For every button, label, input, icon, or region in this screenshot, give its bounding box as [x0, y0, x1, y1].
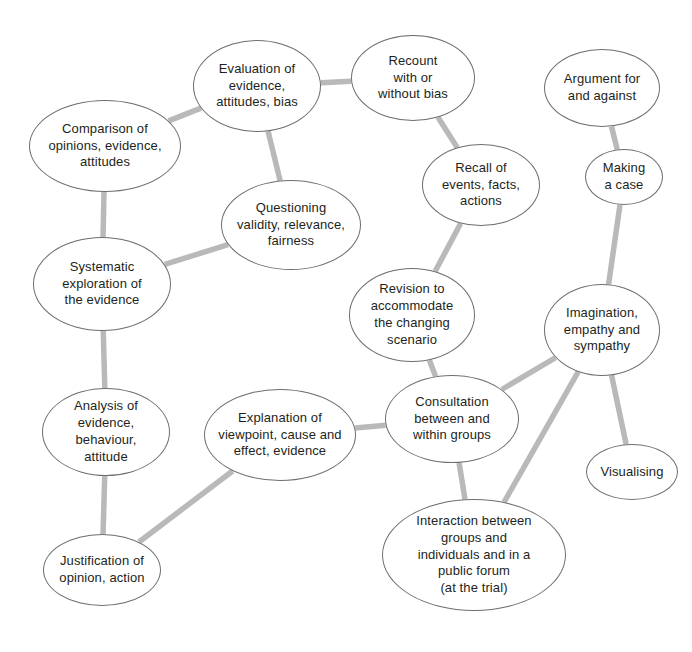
node-recall[interactable]: Recall of events, facts, actions [422, 144, 540, 226]
node-label: Questioning validity, relevance, fairnes… [231, 200, 351, 251]
node-recount[interactable]: Recount with or without bias [351, 35, 475, 121]
node-label: Analysis of evidence, behaviour, attitud… [68, 398, 144, 466]
node-making-a-case[interactable]: Making a case [585, 149, 663, 205]
node-systematic[interactable]: Systematic exploration of the evidence [33, 237, 171, 331]
node-revision[interactable]: Revision to accommodate the changing sce… [349, 268, 475, 362]
node-label: Explanation of viewpoint, cause and effe… [212, 410, 347, 461]
node-label: Evaluation of evidence, attitudes, bias [210, 61, 304, 112]
node-label: Interaction between groups and individua… [410, 513, 537, 597]
node-imagination[interactable]: Imagination, empathy and sympathy [544, 284, 660, 376]
node-label: Argument for and against [558, 71, 646, 105]
node-interaction[interactable]: Interaction between groups and individua… [382, 499, 566, 611]
node-questioning[interactable]: Questioning validity, relevance, fairnes… [221, 180, 361, 270]
node-label: Comparison of opinions, evidence, attitu… [42, 121, 167, 172]
node-visualising[interactable]: Visualising [586, 444, 678, 500]
node-comparison[interactable]: Comparison of opinions, evidence, attitu… [29, 100, 181, 192]
node-label: Systematic exploration of the evidence [56, 259, 147, 310]
node-label: Justification of opinion, action [53, 553, 150, 587]
node-label: Consultation between and within groups [407, 394, 497, 445]
node-consultation[interactable]: Consultation between and within groups [385, 375, 519, 463]
node-label: Visualising [594, 464, 669, 481]
node-label: Revision to accommodate the changing sce… [365, 281, 460, 349]
node-justification[interactable]: Justification of opinion, action [43, 534, 161, 606]
node-label: Imagination, empathy and sympathy [558, 305, 646, 356]
node-argument[interactable]: Argument for and against [544, 49, 660, 127]
node-layer: Evaluation of evidence, attitudes, biasC… [0, 0, 692, 652]
node-label: Making a case [597, 160, 652, 194]
node-explanation[interactable]: Explanation of viewpoint, cause and effe… [204, 389, 356, 481]
node-label: Recount with or without bias [372, 53, 454, 104]
node-analysis[interactable]: Analysis of evidence, behaviour, attitud… [42, 388, 170, 476]
concept-map-canvas: Evaluation of evidence, attitudes, biasC… [0, 0, 692, 652]
node-label: Recall of events, facts, actions [436, 160, 526, 211]
node-evaluation[interactable]: Evaluation of evidence, attitudes, bias [193, 40, 321, 132]
